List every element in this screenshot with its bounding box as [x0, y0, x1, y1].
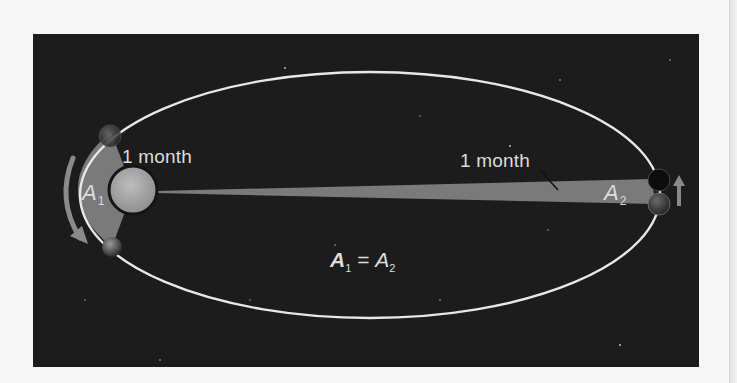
- planet-aphelion-end-icon: [648, 193, 670, 215]
- area-a1-symbol: A: [82, 180, 97, 205]
- sun-icon: [109, 166, 157, 214]
- planet-aphelion-start-icon: [648, 169, 670, 191]
- area-a1-subscript: 1: [98, 194, 105, 208]
- equation-op: =: [357, 248, 369, 271]
- orbit-direction-arrow-right-icon: [673, 175, 685, 206]
- label-area-a2: A2: [604, 180, 626, 208]
- label-area-a1: A1: [82, 180, 104, 208]
- label-right-interval: 1 month: [460, 150, 530, 172]
- equation-lhs-sub: 1: [345, 262, 351, 274]
- area-a2-subscript: 2: [620, 194, 627, 208]
- equation-label: A1 = A2: [330, 248, 395, 274]
- equation-lhs: A: [330, 248, 345, 271]
- equation-rhs: A: [375, 248, 389, 271]
- planet-perihelion-end-icon: [102, 237, 122, 257]
- planet-perihelion-start-icon: [99, 125, 121, 147]
- equation-rhs-sub: 2: [389, 262, 395, 274]
- label-left-interval: 1 month: [122, 146, 192, 168]
- area-a2-symbol: A: [604, 180, 619, 205]
- swept-area-a2: [156, 179, 655, 204]
